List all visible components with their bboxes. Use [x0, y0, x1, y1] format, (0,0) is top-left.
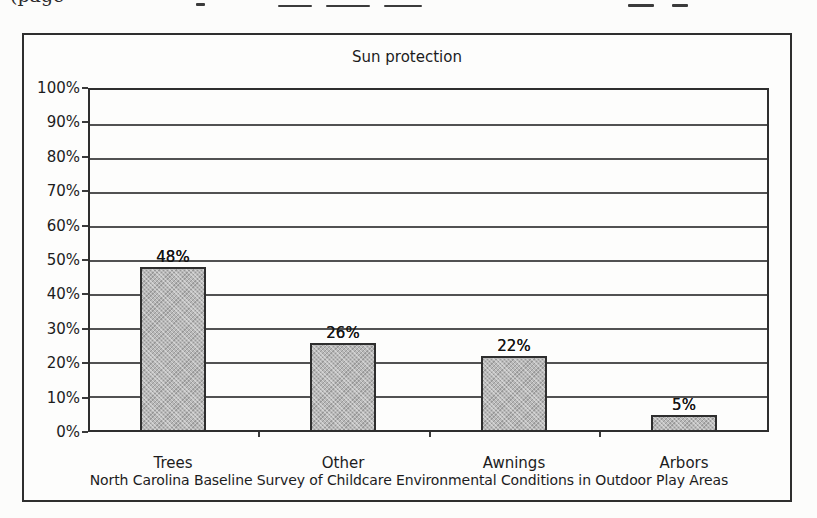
- bar-arbors: [651, 415, 717, 432]
- clipped-line-mark: [278, 5, 312, 7]
- chart-caption: North Carolina Baseline Survey of Childc…: [34, 472, 784, 488]
- x-axis-category-label: Trees: [88, 454, 258, 472]
- x-axis-tick-mark: [599, 432, 601, 437]
- clipped-line-mark: [628, 4, 654, 7]
- clipped-line-mark: [384, 5, 422, 7]
- bar-value-label: 5%: [644, 396, 724, 414]
- y-axis-tick-mark: [82, 259, 88, 261]
- clipped-line-mark: [326, 5, 370, 7]
- y-axis-tick-label: 20%: [26, 355, 80, 371]
- y-axis-tick-mark: [82, 190, 88, 192]
- x-axis-tick-mark: [258, 432, 260, 437]
- bar-awnings: [481, 356, 547, 432]
- y-axis-tick-label: 90%: [26, 114, 80, 130]
- bar-value-label: 22%: [474, 337, 554, 355]
- y-axis-tick-label: 70%: [26, 183, 80, 199]
- y-axis-tick-label: 0%: [26, 424, 80, 440]
- x-axis-category-label: Awnings: [429, 454, 599, 472]
- y-axis-tick-label: 50%: [26, 252, 80, 268]
- y-axis-tick-mark: [82, 121, 88, 123]
- y-axis-tick-mark: [82, 328, 88, 330]
- y-axis-tick-mark: [82, 87, 88, 89]
- bar-trees: [140, 267, 206, 432]
- y-axis-tick-label: 60%: [26, 218, 80, 234]
- figure-box: Sun protection North Carolina Baseline S…: [22, 33, 792, 502]
- y-axis-tick-mark: [82, 293, 88, 295]
- y-axis-tick-mark: [82, 225, 88, 227]
- y-axis-tick-label: 100%: [26, 80, 80, 96]
- x-axis-category-label: Other: [258, 454, 428, 472]
- y-axis-tick-label: 40%: [26, 286, 80, 302]
- y-axis-tick-label: 10%: [26, 390, 80, 406]
- bar-value-label: 26%: [303, 324, 383, 342]
- chart-title: Sun protection: [24, 48, 790, 66]
- y-axis-tick-mark: [82, 431, 88, 433]
- clipped-text-fragment: (page: [10, 0, 64, 6]
- y-axis-tick-mark: [82, 156, 88, 158]
- y-axis-tick-label: 30%: [26, 321, 80, 337]
- y-axis-tick-label: 80%: [26, 149, 80, 165]
- clipped-line-mark: [196, 3, 205, 6]
- bar-other: [310, 343, 376, 432]
- clipped-line-mark: [672, 4, 688, 7]
- y-axis-tick-mark: [82, 397, 88, 399]
- x-axis-tick-mark: [429, 432, 431, 437]
- gridline: [90, 158, 767, 160]
- bar-value-label: 48%: [133, 248, 213, 266]
- gridline: [90, 226, 767, 228]
- x-axis-category-label: Arbors: [599, 454, 769, 472]
- gridline: [90, 192, 767, 194]
- y-axis-tick-mark: [82, 362, 88, 364]
- gridline: [90, 124, 767, 126]
